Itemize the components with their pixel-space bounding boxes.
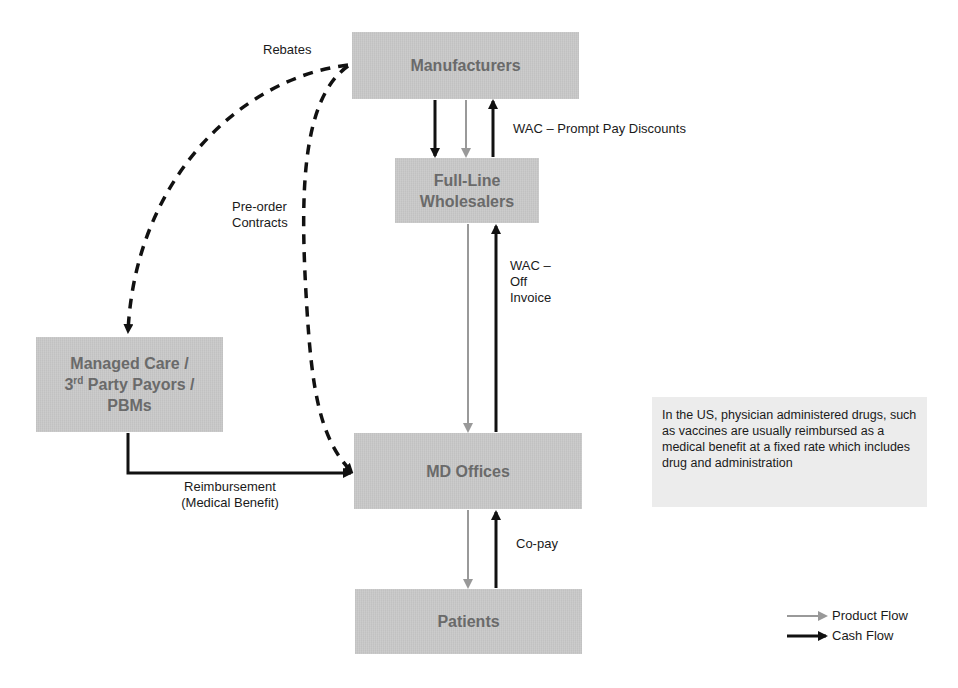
cash-arrow-reimbursement <box>128 433 351 473</box>
node-manufacturers-label: Manufacturers <box>410 55 520 76</box>
label-copay: Co-pay <box>516 536 558 552</box>
node-md-offices-label: MD Offices <box>426 461 510 482</box>
label-wac-off-invoice: WAC – Off Invoice <box>510 258 551 306</box>
node-manufacturers: Manufacturers <box>352 32 579 99</box>
preorder-dashed-arrow <box>304 66 352 472</box>
node-wholesalers-line1: Full-Line <box>434 170 501 191</box>
node-wholesalers: Full-Line Wholesalers <box>395 158 539 223</box>
label-preorder-contracts: Pre-order Contracts <box>232 199 288 231</box>
node-managed-care: Managed Care / 3rd Party Payors / PBMs <box>36 337 223 432</box>
legend-cash-flow: Cash Flow <box>832 628 893 643</box>
legend-product-flow: Product Flow <box>832 608 908 623</box>
node-patients: Patients <box>355 589 582 654</box>
node-patients-label: Patients <box>437 611 499 632</box>
note-box: In the US, physician administered drugs,… <box>652 397 927 507</box>
node-managed-care-line2: 3rd Party Payors / <box>64 374 194 395</box>
label-reimbursement: Reimbursement (Medical Benefit) <box>165 479 295 511</box>
label-wac-prompt-pay: WAC – Prompt Pay Discounts <box>513 121 686 137</box>
node-md-offices: MD Offices <box>354 433 582 509</box>
node-managed-care-line1: Managed Care / <box>70 353 188 374</box>
node-managed-care-line3: PBMs <box>107 395 151 416</box>
node-wholesalers-line2: Wholesalers <box>420 191 514 212</box>
label-rebates: Rebates <box>263 42 311 58</box>
